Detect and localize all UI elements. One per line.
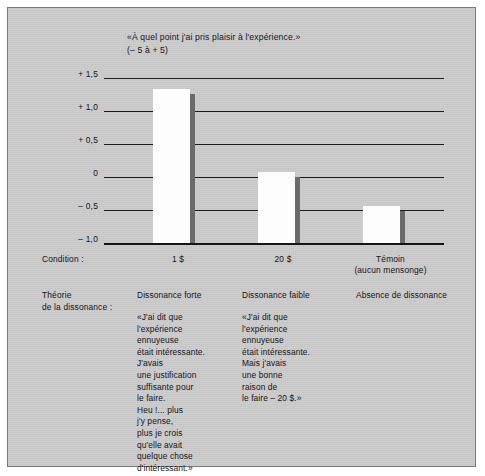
theory-column-dissonance-faible: Dissonance faible «J'ai dit que l'expéri… xyxy=(242,289,347,405)
condition-item-temoin-line2: (aucun mensonge) xyxy=(338,265,443,276)
bar-shadow-1-dollar xyxy=(190,94,195,243)
ytick-label-neg-0-5: – 0,5 xyxy=(78,201,98,211)
quote-line: «J'ai dit que xyxy=(242,312,347,324)
quote-line: une bonne xyxy=(242,370,347,382)
bar-20-dollar xyxy=(258,172,295,243)
ytick-label-1-0: + 1,0 xyxy=(78,102,98,112)
quote-line: J'avais xyxy=(137,358,237,370)
theory-column-absence-dissonance: Absence de dissonance xyxy=(356,289,471,312)
quote-line: était intéressante. xyxy=(137,347,237,359)
bar-shadow-20-dollar xyxy=(295,177,300,243)
condition-row-label: Condition : xyxy=(42,254,84,264)
theory-row-label-line2: de la dissonance : xyxy=(42,301,112,313)
theory-column-2-heading: Dissonance faible xyxy=(242,289,347,301)
quote-line: était intéressante. xyxy=(242,347,347,359)
quote-line: quelque chose xyxy=(137,451,237,463)
condition-item-20-dollar-line1: 20 $ xyxy=(238,254,328,265)
theory-row-label: Théorie de la dissonance : xyxy=(42,289,112,313)
ytick-label-0-5: + 0,5 xyxy=(78,135,98,145)
bar-shadow-temoin xyxy=(400,211,405,243)
quote-line: d'intéressant.» xyxy=(137,463,237,475)
chart-title-line-1: «À quel point j'ai pris plaisir à l'expé… xyxy=(127,31,300,44)
quote-line: le faire – 20 $.» xyxy=(242,393,347,405)
quote-line: j'y pense, xyxy=(137,416,237,428)
ytick-label-0: 0 xyxy=(93,168,98,178)
ytick-label-1-5: + 1,5 xyxy=(78,69,98,79)
quote-line: qu'elle avait xyxy=(137,440,237,452)
quote-line: Mais j'avais xyxy=(242,358,347,370)
theory-column-dissonance-forte: Dissonance forte «J'ai dit que l'expérie… xyxy=(137,289,237,474)
figure-panel: «À quel point j'ai pris plaisir à l'expé… xyxy=(7,7,476,467)
quote-line: raison de xyxy=(242,382,347,394)
chart-title: «À quel point j'ai pris plaisir à l'expé… xyxy=(127,31,300,57)
gridline-1-5: + 1,5 xyxy=(104,78,444,79)
plot-area: + 1,5 + 1,0 + 0,5 0 – 0,5 – 1,0 xyxy=(104,70,444,250)
quote-line: «J'ai dit que xyxy=(137,312,237,324)
quote-line: plus je crois xyxy=(137,428,237,440)
quote-line: Heu !... plus xyxy=(137,405,237,417)
quote-line: une justification xyxy=(137,370,237,382)
bar-1-dollar xyxy=(153,89,190,243)
condition-item-1-dollar: 1 $ xyxy=(133,254,223,265)
theory-column-1-heading: Dissonance forte xyxy=(137,289,237,301)
quote-line: ennuyeuse xyxy=(242,335,347,347)
condition-item-20-dollar: 20 $ xyxy=(238,254,328,265)
quote-line: le faire. xyxy=(137,393,237,405)
gridline-neg-1-0: – 1,0 xyxy=(104,243,444,245)
chart-title-line-2: (– 5 à + 5) xyxy=(127,44,300,57)
quote-line: l'expérience xyxy=(137,324,237,336)
condition-item-temoin-line1: Témoin xyxy=(338,254,443,265)
theory-column-3-heading: Absence de dissonance xyxy=(356,289,471,301)
theory-row-label-line1: Théorie xyxy=(42,289,112,301)
quote-line: suffisante pour xyxy=(137,382,237,394)
quote-line: l'expérience xyxy=(242,324,347,336)
condition-item-temoin: Témoin (aucun mensonge) xyxy=(338,254,443,276)
condition-item-1-dollar-line1: 1 $ xyxy=(133,254,223,265)
ytick-label-neg-1-0: – 1,0 xyxy=(78,234,98,244)
theory-column-2-quote: «J'ai dit que l'expérience ennuyeuse éta… xyxy=(242,312,347,405)
quote-line: ennuyeuse xyxy=(137,335,237,347)
theory-column-1-quote: «J'ai dit que l'expérience ennuyeuse éta… xyxy=(137,312,237,474)
bar-temoin xyxy=(363,206,400,243)
